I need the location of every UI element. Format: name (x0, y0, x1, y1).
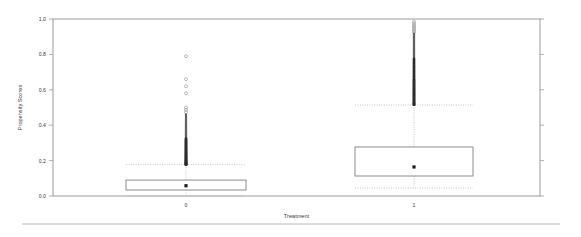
box-rect (355, 147, 473, 176)
y-tick-label: 0.0 (39, 193, 46, 199)
x-axis-title: Treatment (284, 213, 310, 219)
boxplot-figure: 0.00.20.40.60.81.0Propensity Scores01Tre… (0, 0, 581, 237)
outlier-point (185, 92, 188, 95)
y-tick-label: 0.8 (39, 51, 46, 57)
median-marker (184, 184, 187, 187)
median-marker (412, 165, 415, 168)
outlier-point (185, 55, 188, 58)
outlier-point (185, 115, 187, 117)
boxplot-canvas: 0.00.20.40.60.81.0Propensity Scores01Tre… (0, 0, 581, 237)
y-tick-label: 0.4 (39, 122, 46, 128)
y-axis-title: Propensity Scores (17, 85, 23, 131)
outlier-dense-core (185, 139, 187, 165)
outlier-point (185, 78, 188, 81)
outlier-point (185, 85, 188, 88)
outlier-dense-core (413, 79, 415, 105)
box-group-0 (126, 55, 246, 196)
x-tick-label: 1 (413, 202, 416, 208)
outlier-point (185, 117, 187, 119)
box-group-1 (355, 20, 473, 188)
x-tick-label: 0 (185, 202, 188, 208)
y-tick-label: 0.6 (39, 87, 46, 93)
y-tick-label: 0.2 (39, 158, 46, 164)
y-tick-label: 1.0 (39, 16, 46, 22)
